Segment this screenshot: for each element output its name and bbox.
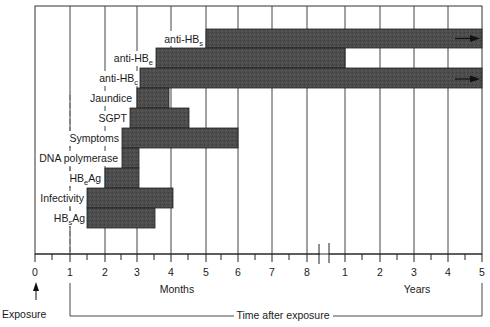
year-tick-labels: 1 2 3 4 5 [342,266,485,278]
svg-text:5: 5 [479,266,485,278]
bar-hbeag [105,168,139,188]
bar-dna-polymerase [122,148,139,168]
svg-text:4: 4 [168,266,174,278]
bar-sgpt [130,108,189,128]
exposure-arrow-icon [33,282,39,300]
svg-text:4: 4 [445,266,451,278]
svg-text:0: 0 [32,266,38,278]
svg-text:2: 2 [377,266,383,278]
bar-infectivity [87,188,173,208]
bar-jaundice [137,88,169,108]
time-after-exposure-label: Time after exposure [237,309,330,321]
bar-anti-hbc [140,68,482,88]
x-axis [35,243,482,264]
label-infectivity: Infectivity [40,192,85,204]
bar-anti-hbe [156,48,345,68]
month-tick-labels: 0 1 2 3 4 5 6 7 8 [32,266,310,278]
label-sgpt: SGPT [98,112,127,124]
svg-text:1: 1 [67,266,73,278]
months-axis-label: Months [160,283,194,295]
svg-text:5: 5 [203,266,209,278]
label-symptoms: Symptoms [69,132,119,144]
years-axis-label: Years [404,283,430,295]
bar-hbsag [87,208,155,228]
exposure-label: Exposure [2,308,47,320]
svg-text:1: 1 [342,266,348,278]
bar-symptoms [122,128,238,148]
label-dna-polymerase: DNA polymerase [39,152,118,164]
svg-text:3: 3 [411,266,417,278]
svg-text:8: 8 [304,266,310,278]
svg-text:2: 2 [102,266,108,278]
label-jaundice: Jaundice [90,92,132,104]
hepatitis-b-timeline-chart: anti-HBs anti-HBe anti-HBc Jaundice SGPT… [0,0,490,327]
svg-text:6: 6 [235,266,241,278]
bar-anti-hbs [206,29,482,48]
svg-text:7: 7 [269,266,275,278]
svg-text:3: 3 [134,266,140,278]
